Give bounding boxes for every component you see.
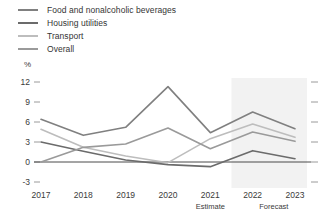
x-tick-2021: 2021 xyxy=(193,190,227,200)
legend-item-housing-utilities: Housing utilities xyxy=(18,17,318,29)
legend-item-food: Food and nonalcoholic beverages xyxy=(18,4,318,16)
legend-swatch-housing-utilities xyxy=(18,22,38,24)
x-note-forecast: Forecast xyxy=(249,202,299,211)
legend-swatch-overall xyxy=(18,48,38,50)
y-tick-12: 12 xyxy=(14,77,30,87)
legend-item-overall: Overall xyxy=(18,43,318,55)
legend-swatch-food xyxy=(18,9,38,11)
forecast-shading xyxy=(232,78,308,188)
x-tick-2019: 2019 xyxy=(109,190,143,200)
x-tick-2018: 2018 xyxy=(66,190,100,200)
legend-item-transport: Transport xyxy=(18,30,318,42)
legend-swatch-transport xyxy=(18,35,38,37)
y-tick-6: 6 xyxy=(14,117,30,127)
chart-legend: Food and nonalcoholic beverages Housing … xyxy=(18,4,318,56)
left-tick-marks xyxy=(34,82,40,182)
y-axis-unit-label: % xyxy=(24,60,31,69)
legend-label-food: Food and nonalcoholic beverages xyxy=(47,5,176,15)
x-note-estimate: Estimate xyxy=(185,202,235,211)
legend-label-overall: Overall xyxy=(47,44,74,54)
y-tick-3: 3 xyxy=(14,137,30,147)
line-chart: % 12 9 6 3 0 -3 2017 2018 2019 2020 2021… xyxy=(0,58,326,216)
x-tick-2022: 2022 xyxy=(236,190,270,200)
legend-label-transport: Transport xyxy=(47,31,84,41)
x-tick-2020: 2020 xyxy=(151,190,185,200)
y-tick-9: 9 xyxy=(14,97,30,107)
x-tick-2023: 2023 xyxy=(278,190,312,200)
y-tick-0: 0 xyxy=(14,157,30,167)
right-tick-marks xyxy=(311,82,318,182)
y-tick-minus3: -3 xyxy=(14,177,30,187)
x-tick-2017: 2017 xyxy=(24,190,58,200)
legend-label-housing-utilities: Housing utilities xyxy=(47,18,107,28)
